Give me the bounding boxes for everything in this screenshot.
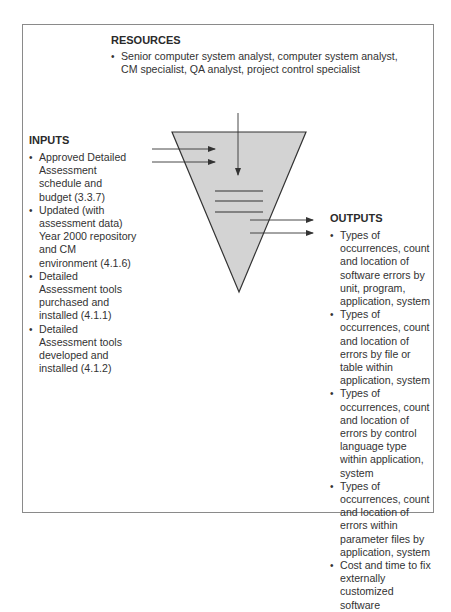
outputs-item: Types of occurrences, count and location… bbox=[330, 308, 434, 387]
outputs-item: Types of occurrences, count and location… bbox=[330, 387, 434, 479]
outputs-heading: OUTPUTS bbox=[330, 212, 383, 224]
outputs-item: Types of occurrences, count and location… bbox=[330, 480, 434, 559]
outputs-item: Types of occurrences, count and location… bbox=[330, 229, 434, 308]
outputs-list: Types of occurrences, count and location… bbox=[330, 229, 434, 612]
outputs-item: Cost and time to fix externally customiz… bbox=[330, 559, 434, 612]
